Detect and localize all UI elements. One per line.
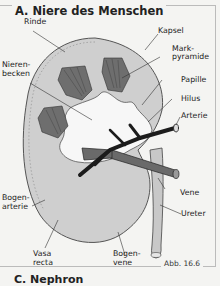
label-markpyramide-line2: pyramide bbox=[172, 53, 209, 62]
label-papille: Papille bbox=[181, 76, 206, 85]
label-ureter: Ureter bbox=[181, 210, 206, 219]
label-arterie: Arterie bbox=[181, 112, 208, 121]
label-vene: Vene bbox=[180, 189, 199, 198]
label-bogenarterie-line2: arterie bbox=[2, 203, 28, 212]
label-vasa-recta-line2: recta bbox=[33, 259, 53, 268]
label-rinde: Rinde bbox=[24, 18, 46, 27]
label-hilus: Hilus bbox=[181, 95, 200, 104]
label-nierenbecken-line2: becken bbox=[2, 70, 30, 79]
label-kapsel: Kapsel bbox=[158, 27, 184, 36]
label-bogenvene-line2: vene bbox=[113, 259, 132, 268]
